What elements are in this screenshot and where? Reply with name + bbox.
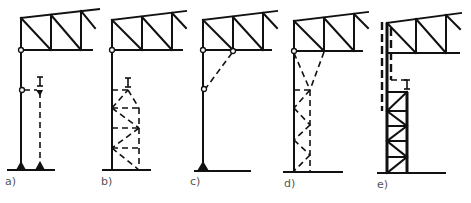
crane-rail-icon	[125, 78, 131, 87]
crane-rail-icon	[37, 77, 43, 86]
hinge-icon	[19, 48, 24, 53]
panel-b: b)	[101, 11, 186, 188]
roof-truss	[387, 13, 461, 53]
hinge-icon	[292, 49, 297, 54]
crane-lattice-support	[112, 90, 139, 170]
hinge-icon	[201, 48, 206, 53]
roof-truss	[21, 9, 99, 50]
hinge-icon	[20, 88, 25, 93]
crane-rail-icon	[404, 80, 410, 89]
tapered-lattice-bracing	[294, 52, 324, 171]
panel-c: c)	[190, 11, 277, 188]
pinned-support-icon	[35, 161, 45, 170]
roof-truss	[294, 12, 368, 51]
panel-label-d: d)	[284, 177, 295, 190]
support-bracket	[36, 90, 43, 96]
structural-frames-diagram: a) b)	[0, 0, 471, 203]
panel-label-a: a)	[5, 175, 16, 188]
panel-d: d)	[284, 12, 368, 190]
roof-truss	[203, 11, 277, 50]
hinge-icon	[110, 48, 115, 53]
lattice-crane-shaft	[387, 92, 407, 173]
pinned-support-icon	[16, 161, 26, 170]
knee-brace	[206, 53, 232, 88]
roof-truss	[112, 11, 186, 50]
panel-label-e: e)	[377, 178, 388, 191]
panel-label-b: b)	[101, 175, 112, 188]
pinned-support-icon	[197, 161, 209, 171]
panel-label-c: c)	[190, 175, 200, 188]
panel-e: e)	[377, 13, 461, 191]
hinge-icon	[202, 87, 207, 92]
panel-a: a)	[5, 9, 99, 188]
